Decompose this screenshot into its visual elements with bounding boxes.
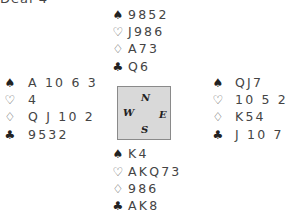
spade-icon: ♠ bbox=[4, 75, 18, 91]
diamond-icon: ♢ bbox=[112, 181, 126, 197]
heart-icon: ♡ bbox=[212, 92, 226, 108]
diamond-icon: ♢ bbox=[4, 109, 18, 125]
spade-icon: ♠ bbox=[212, 75, 226, 91]
compass-box: N W E S bbox=[117, 86, 171, 140]
compass-west: W bbox=[123, 107, 134, 118]
heart-icon: ♡ bbox=[4, 92, 18, 108]
club-icon: ♣ bbox=[112, 198, 126, 214]
club-icon: ♣ bbox=[112, 59, 126, 75]
spade-icon: ♠ bbox=[112, 7, 126, 23]
compass-north: N bbox=[141, 92, 150, 103]
spade-icon: ♠ bbox=[112, 146, 126, 162]
diamond-icon: ♢ bbox=[112, 41, 126, 57]
club-icon: ♣ bbox=[212, 127, 226, 143]
compass-south: S bbox=[141, 124, 148, 135]
deal-title-fragment: Deal 4 bbox=[0, 0, 48, 6]
heart-icon: ♡ bbox=[112, 24, 126, 40]
heart-icon: ♡ bbox=[112, 164, 126, 180]
compass-east: E bbox=[159, 109, 167, 120]
diamond-icon: ♢ bbox=[212, 109, 226, 125]
club-icon: ♣ bbox=[4, 127, 18, 143]
